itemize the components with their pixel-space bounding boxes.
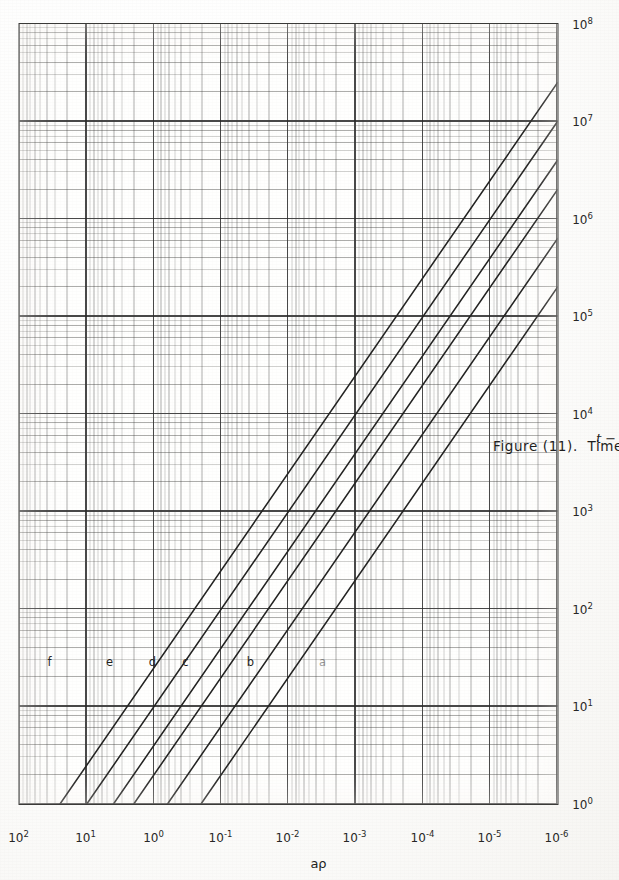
data-curves [19, 24, 557, 804]
curve-c [133, 190, 557, 804]
x-tick-0: 100 [572, 798, 593, 812]
curve-a [201, 287, 558, 804]
curve-f [60, 83, 558, 804]
y-tick--6: 10-6 [544, 831, 568, 845]
y-tick--1: 10-1 [208, 831, 232, 845]
curves-svg [19, 24, 557, 804]
curve-label-e: e [105, 655, 112, 669]
x-tick-7: 107 [572, 116, 593, 130]
curve-label-f: f [47, 655, 51, 669]
plot-area: f e d c b a [18, 23, 558, 805]
x-tick-2: 102 [572, 603, 593, 617]
figure-stage: f e d c b a 100101102103104105106107108 … [0, 0, 619, 880]
y-tick--4: 10-4 [410, 831, 434, 845]
x-tick-8: 108 [572, 18, 593, 32]
scanned-page: f e d c b a 100101102103104105106107108 … [0, 0, 619, 880]
curve-label-d: d [148, 655, 155, 669]
curve-label-c: c [182, 655, 188, 669]
curve-label-a: a [318, 655, 325, 669]
y-tick--5: 10-5 [477, 831, 501, 845]
y-tick-1: 101 [75, 831, 96, 845]
y-tick--2: 10-2 [275, 831, 299, 845]
x-tick-6: 106 [572, 213, 593, 227]
x-tick-3: 103 [572, 506, 593, 520]
x-tick-5: 105 [572, 311, 593, 325]
y-tick--3: 10-3 [342, 831, 366, 845]
x-tick-1: 101 [572, 701, 593, 715]
x-tick-4: 104 [572, 408, 593, 422]
curve-d [113, 160, 557, 804]
y-tick-0: 100 [142, 831, 163, 845]
curve-b [167, 239, 557, 804]
figure-caption: Figure (11). Time of infall for ao = 1.8… [493, 438, 619, 454]
curve-label-b: b [246, 655, 253, 669]
curve-e [86, 122, 557, 805]
y-axis-label: aρ [310, 856, 326, 871]
y-tick-2: 102 [8, 831, 29, 845]
